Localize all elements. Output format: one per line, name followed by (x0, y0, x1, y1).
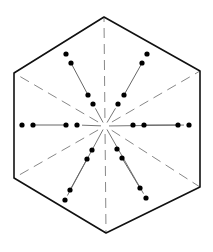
dot-lower-right (143, 195, 148, 200)
dot-upper-left (68, 60, 73, 65)
dot-right (141, 122, 146, 127)
dot-upper-left (90, 101, 95, 106)
dot-upper-right (115, 101, 120, 106)
ray-line-upper-right (124, 63, 142, 95)
dot-upper-right (139, 60, 144, 65)
dot-rays (19, 51, 191, 202)
ray-center-line-lower-left (67, 130, 103, 196)
dot-lower-left (84, 156, 89, 161)
ray-connector-lines (33, 63, 184, 196)
dot-upper-right (121, 92, 126, 97)
dashed-spoke (14, 73, 98, 122)
dot-left (30, 122, 35, 127)
dot-lower-left (89, 147, 94, 152)
dot-left (74, 122, 79, 127)
ray-line-upper-left (71, 63, 88, 95)
dashed-spoke (112, 130, 200, 187)
ray-center-line-left (82, 125, 101, 126)
dot-lower-left (62, 197, 67, 202)
dashed-spoke (105, 134, 106, 233)
dot-lower-right (119, 155, 124, 160)
dot-upper-left (63, 51, 68, 56)
dot-right (175, 122, 180, 127)
ray-center-line-upper-left (95, 108, 103, 122)
dashed-spoke (104, 17, 105, 118)
dot-right (186, 122, 191, 127)
dot-lower-right (137, 185, 142, 190)
hexagon-dot-diagram (0, 0, 213, 252)
dot-upper-left (85, 92, 90, 97)
dot-lower-right (114, 146, 119, 151)
dot-upper-right (144, 51, 149, 56)
dot-right (130, 122, 135, 127)
dashed-spoke (14, 130, 98, 178)
dot-left (19, 122, 24, 127)
dot-lower-left (67, 187, 72, 192)
dot-left (63, 122, 68, 127)
